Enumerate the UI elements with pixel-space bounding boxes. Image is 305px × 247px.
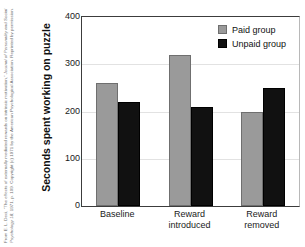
figure-bar-chart: From E. L. Deci, “The effects of externa… <box>0 0 305 247</box>
y-axis-title-text: Seconds spent working on puzzle <box>40 10 56 205</box>
caption-part-1: From E. L. Deci, “The effects of externa… <box>3 74 8 243</box>
y-axis-title: Seconds spent working on puzzle <box>36 0 58 215</box>
chart-legend: Paid groupUnpaid group <box>218 23 298 51</box>
legend-swatch-icon <box>218 25 227 34</box>
y-axis-tick-labels: 0100200300400 <box>56 0 80 247</box>
bar-group <box>96 17 140 206</box>
legend-entry: Paid group <box>218 23 298 36</box>
x-axis-tick-labels: BaselineRewardintroducedRewardremoved <box>81 209 300 243</box>
legend-label: Unpaid group <box>232 39 286 49</box>
bar <box>241 112 263 207</box>
bar <box>263 88 285 206</box>
bar <box>191 107 213 206</box>
x-axis-tick-label: Rewardintroduced <box>153 209 225 231</box>
x-axis-tick-label: Rewardremoved <box>226 209 298 231</box>
y-axis-tick-label: 300 <box>56 58 80 68</box>
x-axis-tick-label: Baseline <box>81 209 153 220</box>
bar-group <box>169 17 213 206</box>
legend-label: Paid group <box>232 25 276 35</box>
y-axis-tick-label: 100 <box>56 153 80 163</box>
legend-swatch-icon <box>218 39 227 48</box>
legend-entry: Unpaid group <box>218 37 298 50</box>
bar <box>118 102 140 206</box>
source-caption: From E. L. Deci, “The effects of externa… <box>0 0 34 247</box>
y-axis-tick-label: 400 <box>56 11 80 21</box>
bar <box>96 83 118 206</box>
y-axis-tick-label: 200 <box>56 106 80 116</box>
y-axis-tick-label: 0 <box>56 200 80 210</box>
plot-area: Paid groupUnpaid group <box>81 16 300 207</box>
caption-part-2: , 1971, p. 109. Copyright (c) 1971 by th… <box>9 8 14 214</box>
bar <box>169 55 191 206</box>
source-caption-text: From E. L. Deci, “The effects of externa… <box>3 3 33 243</box>
